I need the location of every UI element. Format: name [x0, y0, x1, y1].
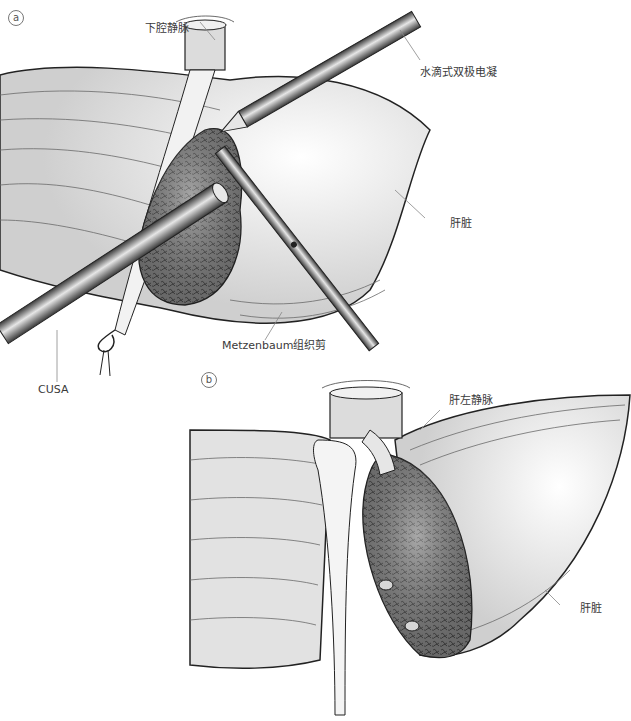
ivc-b: [330, 393, 402, 438]
label-cusa: CUSA: [38, 384, 68, 395]
surgical-illustration: a 下腔静脉 水滴式双极电凝 肝脏 Metzenbaum组织剪 CUSA b 肝…: [0, 0, 631, 721]
label-left-hepatic-vein: 肝左静脉: [449, 395, 493, 406]
label-liver-b: 肝脏: [580, 603, 602, 614]
label-ivc: 下腔静脉: [145, 23, 189, 34]
label-liver-a: 肝脏: [450, 218, 472, 229]
panel-b-tag: b: [201, 372, 217, 388]
illustration-canvas: [0, 0, 631, 721]
panel-a-drawing: [0, 11, 430, 382]
label-bipolar: 水滴式双极电凝: [420, 67, 497, 78]
label-scissors: Metzenbaum组织剪: [222, 340, 327, 351]
panel-a-tag: a: [8, 10, 24, 26]
ivc-a: [185, 25, 225, 70]
panel-b-drawing: [190, 381, 630, 716]
